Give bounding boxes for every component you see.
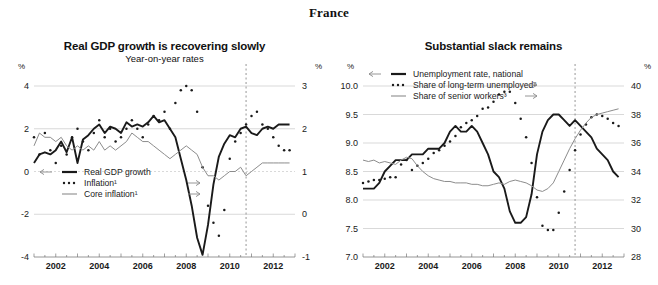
y-tick-label-left: 10.0 bbox=[340, 81, 358, 91]
x-tick-label: 2004 bbox=[89, 261, 109, 271]
x-tick-label: 2008 bbox=[505, 261, 525, 271]
legend-item-unemployment-rate-national: Unemployment rate, national bbox=[369, 69, 523, 79]
x-tick-label: 2010 bbox=[549, 261, 569, 271]
y-tick-label-right: 36 bbox=[631, 138, 641, 148]
svg-text:Share of long-term unemployed²: Share of long-term unemployed² bbox=[413, 80, 536, 90]
y-tick-label-right: 28 bbox=[631, 252, 641, 262]
y-tick-label-left: 2 bbox=[24, 124, 29, 134]
y-tick-label-right: 32 bbox=[631, 195, 641, 205]
x-tick-label: 2010 bbox=[220, 261, 240, 271]
legend-item-real-gdp-growth: Real GDP growth bbox=[40, 167, 151, 177]
legend-item-share-of-long-term-unemployed: Share of long-term unemployed² bbox=[392, 80, 537, 90]
page-title: France bbox=[0, 5, 658, 21]
x-tick-label: 2002 bbox=[375, 261, 395, 271]
chart-panel-substantial-slack: Substantial slack remains %%7.07.58.08.5… bbox=[329, 26, 658, 285]
y-tick-label-right: -1 bbox=[302, 252, 310, 262]
y-tick-label-right: 1 bbox=[302, 167, 307, 177]
y-tick-label-left: 4 bbox=[24, 81, 29, 91]
y-tick-label-right: 0 bbox=[302, 209, 307, 219]
x-tick-label: 2002 bbox=[46, 261, 66, 271]
chart-svg-real-gdp-growth: %%-4-2024-10123200220042006200820102012R… bbox=[0, 26, 329, 285]
y-axis-unit-right: % bbox=[315, 62, 322, 71]
legend-item-core-inflation: Core inflation¹ bbox=[62, 189, 200, 199]
chart-panel-real-gdp-growth: Real GDP growth is recovering slowly Yea… bbox=[0, 26, 329, 285]
y-tick-label-left: 9.0 bbox=[345, 138, 358, 148]
y-tick-label-left: 9.5 bbox=[345, 110, 358, 120]
svg-text:Core inflation¹: Core inflation¹ bbox=[84, 189, 138, 199]
y-tick-label-right: 40 bbox=[631, 81, 641, 91]
x-tick-label: 2012 bbox=[263, 261, 283, 271]
legend-item-inflation: Inflation¹ bbox=[63, 178, 200, 188]
y-tick-label-left: 7.5 bbox=[345, 224, 358, 234]
x-tick-label: 2008 bbox=[176, 261, 196, 271]
y-tick-label-right: 38 bbox=[631, 110, 641, 120]
legend-item-share-of-senior-workers: Share of senior workers³ bbox=[391, 91, 537, 101]
y-tick-label-left: -2 bbox=[21, 209, 29, 219]
x-tick-label: 2004 bbox=[418, 261, 438, 271]
svg-text:Unemployment rate, national: Unemployment rate, national bbox=[413, 69, 523, 79]
y-tick-label-right: 34 bbox=[631, 167, 641, 177]
y-axis-unit-left: % bbox=[18, 62, 25, 71]
y-tick-label-left: -4 bbox=[21, 252, 29, 262]
y-axis-unit-right: % bbox=[644, 62, 651, 71]
svg-text:Real GDP growth: Real GDP growth bbox=[84, 167, 151, 177]
svg-text:Share of senior workers³: Share of senior workers³ bbox=[413, 91, 507, 101]
x-tick-label: 2006 bbox=[462, 261, 482, 271]
series-share-of-senior-workers bbox=[363, 109, 619, 192]
y-tick-label-right: 3 bbox=[302, 81, 307, 91]
chart-svg-substantial-slack: %%7.07.58.08.59.09.510.02830323436384020… bbox=[329, 26, 658, 285]
y-tick-label-left: 8.0 bbox=[345, 195, 358, 205]
y-tick-label-right: 30 bbox=[631, 224, 641, 234]
x-tick-label: 2012 bbox=[592, 261, 612, 271]
y-axis-unit-left: % bbox=[347, 62, 354, 71]
y-tick-label-left: 0 bbox=[24, 167, 29, 177]
y-tick-label-left: 8.5 bbox=[345, 167, 358, 177]
y-tick-label-left: 7.0 bbox=[345, 252, 358, 262]
svg-text:Inflation¹: Inflation¹ bbox=[84, 178, 117, 188]
x-tick-label: 2006 bbox=[133, 261, 153, 271]
y-tick-label-right: 2 bbox=[302, 124, 307, 134]
